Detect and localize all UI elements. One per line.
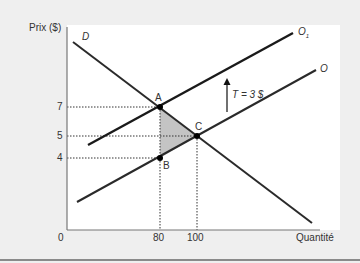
bottom-rule: [0, 259, 360, 261]
supply-with-tax-label: O1: [298, 26, 309, 39]
point-c-marker: [194, 133, 200, 139]
tax-arrow-icon: [224, 78, 231, 112]
x-axis-label: Quantité: [296, 232, 334, 243]
supply-demand-diagram: [0, 0, 360, 263]
x-tick-100: 100: [187, 232, 204, 243]
point-a-label: A: [155, 92, 162, 103]
x-tick-80: 80: [153, 232, 164, 243]
y-tick-4: 4: [57, 152, 63, 163]
demand-label: D: [82, 31, 89, 42]
point-c-label: C: [195, 121, 202, 132]
y-axis-label: Prix ($): [29, 22, 61, 33]
origin-label: 0: [58, 232, 64, 243]
y-tick-7: 7: [57, 101, 63, 112]
point-b-label: B: [163, 160, 170, 171]
point-a-marker: [157, 104, 163, 110]
supply-label: O: [320, 63, 328, 74]
y-tick-5: 5: [57, 130, 63, 141]
tax-label: T = 3 $: [232, 89, 263, 100]
